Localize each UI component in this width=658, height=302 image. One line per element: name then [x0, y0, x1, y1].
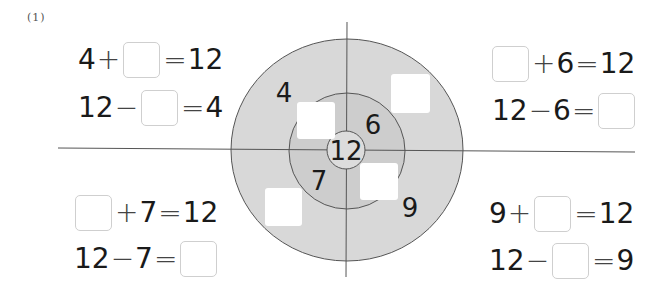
equals-sign: = [154, 240, 177, 278]
minus-sign: − [526, 242, 549, 280]
operand: 12 [74, 240, 110, 278]
blank-outer-top-right[interactable] [391, 74, 430, 113]
minus-sign: − [529, 92, 552, 130]
equation-top-left-2: 12 − = 4 [78, 89, 223, 127]
equals-sign: = [592, 242, 615, 280]
inner-label-7: 7 [311, 166, 328, 196]
equals-sign: = [181, 89, 204, 127]
blank-inner-bottom-right[interactable] [360, 163, 398, 200]
answer-box[interactable] [123, 42, 160, 78]
answer-box[interactable] [75, 195, 112, 231]
equals-sign: = [575, 45, 598, 83]
center-value: 12 [329, 136, 362, 166]
outer-label-4: 4 [276, 78, 293, 108]
minus-sign: − [115, 89, 138, 127]
operand: 6 [553, 92, 571, 130]
equals-sign: = [572, 92, 595, 130]
answer-box[interactable] [492, 46, 529, 82]
result: 9 [617, 242, 635, 280]
equation-top-right-1: + 6 = 12 [490, 45, 635, 83]
equals-sign: = [158, 194, 181, 232]
result: 12 [599, 195, 635, 233]
equation-top-right-2: 12 − 6 = [492, 92, 637, 130]
inner-label-6: 6 [365, 110, 382, 140]
result: 12 [188, 41, 224, 79]
answer-box[interactable] [534, 196, 571, 232]
operand: 12 [489, 242, 525, 280]
result: 12 [600, 45, 636, 83]
equation-bottom-left-2: 12 − 7 = [74, 240, 219, 278]
plus-sign: + [508, 195, 531, 233]
equals-sign: = [163, 41, 186, 79]
blank-outer-bottom-left[interactable] [265, 188, 302, 226]
operand: 6 [556, 45, 574, 83]
answer-box[interactable] [552, 243, 589, 279]
plus-sign: + [97, 41, 120, 79]
blank-inner-top-left[interactable] [297, 102, 335, 139]
answer-box[interactable] [598, 93, 635, 129]
result: 12 [183, 194, 219, 232]
answer-box[interactable] [141, 90, 178, 126]
operand: 7 [139, 194, 157, 232]
plus-sign: + [532, 45, 555, 83]
minus-sign: − [111, 240, 134, 278]
equation-bottom-left-1: + 7 = 12 [73, 194, 218, 232]
outer-label-9: 9 [402, 193, 419, 223]
equation-bottom-right-1: 9 + = 12 [489, 195, 634, 233]
result: 4 [206, 89, 224, 127]
equals-sign: = [574, 195, 597, 233]
operand: 12 [78, 89, 114, 127]
equation-top-left-1: 4 + = 12 [78, 41, 223, 79]
equation-bottom-right-2: 12 − = 9 [489, 242, 634, 280]
operand: 12 [492, 92, 528, 130]
operand: 9 [489, 195, 507, 233]
operand: 7 [135, 240, 153, 278]
answer-box[interactable] [180, 241, 217, 277]
plus-sign: + [115, 194, 138, 232]
operand: 4 [78, 41, 96, 79]
